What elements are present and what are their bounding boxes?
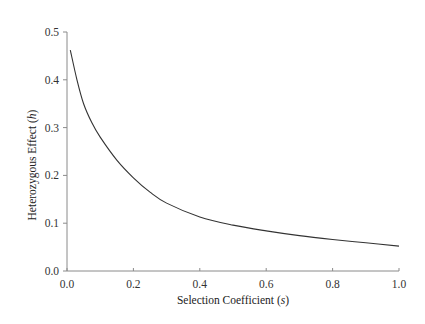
y-tick-label: 0.1: [45, 217, 60, 229]
y-tick-label: 0.4: [45, 74, 60, 86]
x-axis: 0.00.20.40.60.81.0: [60, 268, 407, 290]
y-tick-label: 0.2: [45, 169, 60, 181]
y-tick-label: 0.3: [45, 122, 60, 134]
y-axis: 0.00.10.20.30.40.5: [45, 26, 67, 277]
y-axis-title: Heterozygous Effect (h): [26, 109, 39, 220]
x-tick-label: 0.0: [60, 278, 75, 290]
x-tick-label: 0.2: [126, 278, 141, 290]
data-series-line: [70, 50, 399, 246]
chart: 0.00.10.20.30.40.5 0.00.20.40.60.81.0 He…: [0, 0, 425, 324]
y-tick-label: 0.5: [45, 26, 60, 38]
x-tick-label: 0.8: [325, 278, 340, 290]
x-tick-label: 0.4: [193, 278, 208, 290]
x-axis-title: Selection Coefficient (s): [177, 294, 289, 307]
plot-area: [70, 50, 399, 246]
x-tick-label: 1.0: [392, 278, 407, 290]
y-tick-label: 0.0: [45, 265, 60, 277]
x-tick-label: 0.6: [259, 278, 274, 290]
